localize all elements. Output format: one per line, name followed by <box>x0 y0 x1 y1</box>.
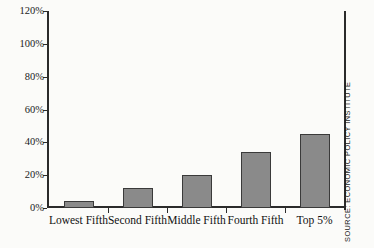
bar-slot <box>300 11 330 208</box>
y-tick-label: 120% <box>0 6 44 16</box>
bar-chart: 0%20%40%60%80%100%120% Lowest FifthSecon… <box>0 0 374 248</box>
y-tick-mark <box>43 208 47 209</box>
bar-slot <box>64 11 94 208</box>
y-tick-label: 20% <box>0 170 44 180</box>
bar <box>182 175 212 208</box>
y-tick-label: 100% <box>0 39 44 49</box>
y-tick-label: 80% <box>0 72 44 82</box>
bar <box>123 188 153 208</box>
bar-slot <box>182 11 212 208</box>
y-tick-mark <box>43 11 47 12</box>
bar-slot <box>241 11 271 208</box>
y-tick-label: 40% <box>0 137 44 147</box>
y-tick-mark <box>43 175 47 176</box>
x-tick-label: Top 5% <box>277 213 352 227</box>
y-tick-label: 0% <box>0 203 44 213</box>
y-tick-label: 60% <box>0 105 44 115</box>
x-tick-mark <box>226 208 227 213</box>
bar <box>64 201 94 208</box>
bar-slot <box>123 11 153 208</box>
bar-series <box>49 11 344 208</box>
x-tick-mark <box>167 208 168 213</box>
bar <box>241 152 271 208</box>
x-tick-mark <box>108 208 109 213</box>
y-tick-mark <box>43 77 47 78</box>
x-tick-mark <box>285 208 286 213</box>
y-tick-mark <box>43 142 47 143</box>
y-tick-mark <box>43 44 47 45</box>
bar <box>300 134 330 208</box>
source-note: SOURCE: ECONOMIC POLICY INSTITUTE <box>343 82 352 243</box>
y-tick-mark <box>43 110 47 111</box>
